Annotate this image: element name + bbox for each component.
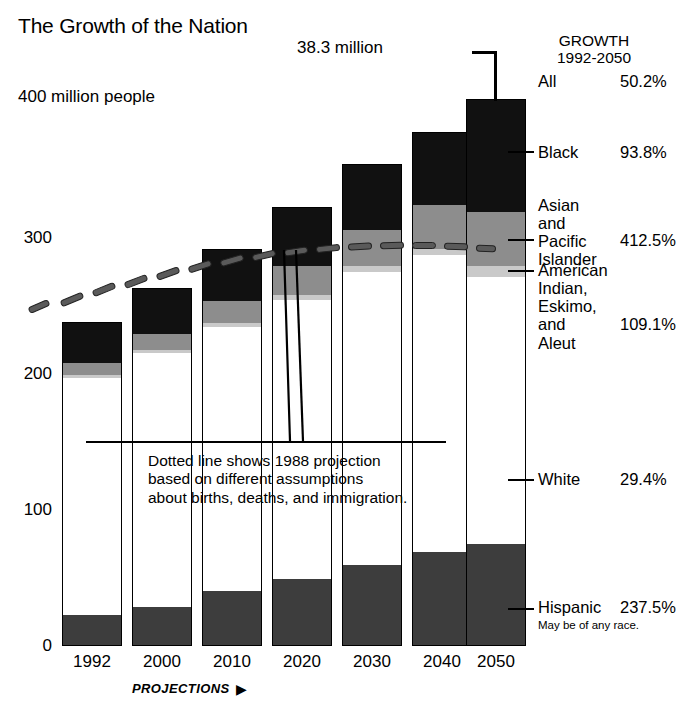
legend-header-line-1: GROWTH — [504, 32, 684, 49]
y-tick-100: 100 — [0, 500, 52, 520]
bar-2020[interactable] — [272, 207, 332, 646]
chart-canvas: The Growth of the Nation 400 million peo… — [0, 0, 696, 714]
legend-leader-white — [508, 479, 534, 481]
projection-dash — [156, 266, 181, 281]
legend-label-hispanic: Hispanic — [538, 598, 601, 616]
segment-asian-2020 — [273, 266, 331, 295]
legend-pct-black: 93.8% — [620, 143, 667, 162]
annotation-text: Dotted line shows 1988 projection based … — [148, 452, 448, 507]
bar-2040[interactable] — [412, 132, 472, 646]
x-tick-2050: 2050 — [466, 652, 526, 672]
projections-label: PROJECTIONS — [132, 681, 230, 696]
projection-dash — [348, 242, 372, 250]
y-axis-unit-label: 400 million people — [18, 87, 155, 107]
segment-hispanic-2040 — [413, 552, 471, 645]
annotation-line-3: about births, deaths, and immigration. — [148, 489, 448, 507]
segment-asian-1992 — [63, 363, 121, 375]
projection-dash — [444, 243, 468, 251]
segment-hispanic-2000 — [133, 607, 191, 645]
x-tick-2000: 2000 — [132, 652, 192, 672]
legend-leader-hispanic — [508, 608, 534, 610]
annotation-line-1: Dotted line shows 1988 projection — [148, 452, 448, 470]
projection-dash — [476, 244, 496, 252]
legend-label-all: All — [538, 72, 556, 90]
projection-dash — [92, 282, 117, 297]
legend-pct-white: 29.4% — [620, 470, 667, 489]
segment-black-2000 — [133, 289, 191, 334]
segment-hispanic-2030 — [343, 565, 401, 645]
projection-dash — [60, 292, 85, 308]
segment-hispanic-2020 — [273, 579, 331, 645]
page-title: The Growth of the Nation — [18, 14, 248, 38]
segment-hispanic-1992 — [63, 615, 121, 645]
segment-asian-2000 — [133, 334, 191, 350]
legend-header-line-2: 1992-2050 — [504, 49, 684, 66]
segment-asian-2010 — [203, 301, 261, 323]
segment-black-2040 — [413, 133, 471, 205]
legend-label-white: White — [538, 470, 580, 488]
y-tick-200: 200 — [0, 364, 52, 384]
segment-black-1992 — [63, 323, 121, 363]
segment-black-2030 — [343, 165, 401, 230]
bar-2010[interactable] — [202, 249, 262, 646]
x-tick-2010: 2010 — [202, 652, 262, 672]
segment-black-2020 — [273, 208, 331, 266]
segment-black-2050 — [467, 100, 525, 212]
x-tick-2040: 2040 — [412, 652, 472, 672]
projection-dash — [380, 242, 404, 249]
callout-leader-vertical — [494, 51, 497, 101]
bar-1992[interactable] — [62, 322, 122, 646]
legend-pct-all: 50.2% — [620, 72, 667, 91]
play-arrow-icon: ▶ — [236, 682, 247, 696]
legend-label-asian: Asian and Pacific Islander — [538, 196, 597, 269]
legend-header: GROWTH 1992-2050 — [504, 32, 684, 67]
segment-hispanic-2010 — [203, 591, 261, 645]
y-tick-300: 300 — [0, 228, 52, 248]
callout-value-label: 38.3 million — [297, 38, 383, 58]
segment-hispanic-2050 — [467, 544, 525, 645]
projection-dash — [316, 244, 341, 253]
legend-leader-amerind — [508, 270, 534, 272]
y-tick-0: 0 — [0, 636, 52, 656]
legend-pct-asian: 412.5% — [620, 231, 676, 250]
projection-dash — [124, 274, 149, 289]
x-tick-1992: 1992 — [62, 652, 122, 672]
annotation-frame-top — [86, 441, 446, 443]
x-tick-2030: 2030 — [342, 652, 402, 672]
legend-leader-asian — [508, 239, 534, 241]
legend-pct-amerind: 109.1% — [620, 315, 676, 334]
bar-2050[interactable] — [466, 99, 526, 646]
legend-label-amerind: American Indian, Eskimo, and Aleut — [538, 261, 608, 352]
legend-label-black: Black — [538, 143, 578, 161]
legend-note-hispanic: May be of any race. — [538, 619, 639, 631]
x-tick-2020: 2020 — [272, 652, 332, 672]
projections-group: PROJECTIONS ▶ — [132, 681, 247, 696]
projection-dash — [28, 299, 51, 314]
legend-leader-black — [508, 151, 534, 153]
projection-dash — [412, 242, 436, 249]
bar-2030[interactable] — [342, 164, 402, 646]
legend-pct-hispanic: 237.5% — [620, 598, 676, 617]
segment-white-1992 — [63, 378, 121, 646]
annotation-line-2: based on different assumptions — [148, 470, 448, 488]
callout-leader-horizontal — [472, 51, 496, 54]
